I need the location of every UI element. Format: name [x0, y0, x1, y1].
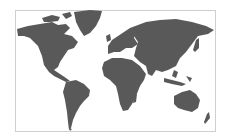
- uk: [106, 34, 111, 42]
- south-america: [63, 80, 90, 130]
- australia: [174, 90, 200, 112]
- africa: [102, 58, 146, 111]
- greenland: [74, 10, 102, 36]
- indonesia: [164, 70, 192, 86]
- north-america: [17, 22, 78, 82]
- world-map: [0, 0, 234, 140]
- arctic-islands: [42, 12, 72, 22]
- new-zealand: [204, 112, 210, 124]
- asia: [130, 19, 214, 76]
